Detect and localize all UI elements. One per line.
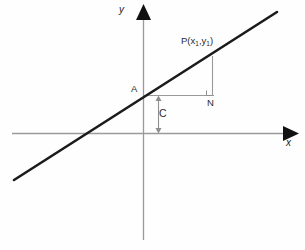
point-p-sub-y: 1 [206, 40, 210, 47]
y-axis-label: y [119, 5, 124, 15]
x-axis-label: x [286, 138, 291, 148]
point-p-sub-x: 1 [195, 40, 199, 47]
right-angle-at-n-icon [207, 91, 213, 96]
point-p-label-tail: ) [210, 35, 213, 46]
point-p-label-head: P(x [181, 35, 195, 46]
geometry-canvas [0, 0, 305, 250]
graph-line [14, 12, 277, 180]
point-a-label: A [131, 84, 137, 94]
y-axis-arrowhead [136, 4, 151, 20]
diagram-root: y x A P(x1,y1) N C [0, 0, 305, 250]
point-p-label: P(x1,y1) [181, 36, 213, 46]
segment-c-label: C [159, 108, 167, 119]
point-n-label: N [207, 98, 214, 108]
